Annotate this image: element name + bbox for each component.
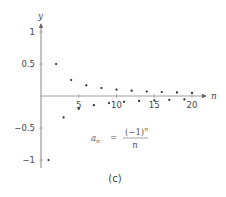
y-tick-neg0.5: −0.5 xyxy=(14,123,35,133)
data-point xyxy=(176,91,178,93)
data-point xyxy=(100,87,102,89)
data-point xyxy=(183,98,185,100)
data-point xyxy=(115,89,117,91)
formula-numerator: (−1)n xyxy=(125,125,148,137)
y-tick-0.5: 0.5 xyxy=(21,59,35,69)
sequence-plot: n y 5 10 15 20 1 0.5 −0.5 −1 an = (−1)n … xyxy=(0,0,226,197)
data-point xyxy=(85,84,87,86)
data-point xyxy=(70,79,72,81)
data-point xyxy=(191,92,193,94)
formula: an = (−1)n n xyxy=(91,125,148,150)
data-point xyxy=(78,108,80,110)
x-tick-15: 15 xyxy=(149,100,160,110)
data-point xyxy=(47,159,49,161)
data-point xyxy=(93,104,95,106)
formula-denominator: n xyxy=(132,140,137,150)
data-point xyxy=(123,101,125,103)
data-point xyxy=(153,99,155,101)
data-point xyxy=(138,100,140,102)
figure-caption: (c) xyxy=(108,173,121,184)
data-point xyxy=(146,90,148,92)
formula-equals: = xyxy=(110,133,117,143)
data-point xyxy=(161,91,163,93)
formula-lhs: an xyxy=(91,133,100,144)
x-axis-label: n xyxy=(211,91,217,101)
data-point xyxy=(63,116,65,118)
x-tick-10: 10 xyxy=(111,100,122,110)
data-points xyxy=(47,63,193,161)
data-point xyxy=(55,63,57,65)
y-tick-1: 1 xyxy=(30,27,35,37)
x-tick-20: 20 xyxy=(187,100,198,110)
data-point xyxy=(108,102,110,104)
data-point xyxy=(168,99,170,101)
y-axis-label: y xyxy=(37,11,44,21)
y-tick-neg1: −1 xyxy=(22,155,35,165)
data-point xyxy=(131,90,133,92)
